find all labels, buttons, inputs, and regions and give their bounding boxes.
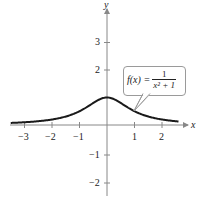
x-tick-label: −2	[45, 132, 56, 142]
y-axis-label: y	[104, 0, 108, 10]
function-curve	[11, 98, 179, 123]
x-tick-label: −1	[73, 132, 84, 142]
y-tick-label: 3	[95, 37, 100, 47]
y-tick-label: −2	[89, 178, 100, 188]
formula-numerator: 1	[162, 69, 167, 79]
x-tick-label: 2	[159, 132, 164, 142]
plot-area	[0, 0, 200, 202]
x-axis-label: x	[191, 119, 195, 130]
x-tick-label: 1	[132, 132, 137, 142]
y-tick-label: −1	[89, 150, 100, 160]
formula-fraction: 1 x² + 1	[152, 69, 176, 90]
x-tick-label: −3	[18, 132, 29, 142]
formula-label: f(x) = 1 x² + 1	[127, 69, 176, 90]
y-tick-label: 2	[95, 65, 100, 75]
callout-pointer	[134, 94, 150, 111]
formula-denominator: x² + 1	[153, 80, 175, 90]
formula-lhs: f(x) =	[127, 74, 150, 85]
